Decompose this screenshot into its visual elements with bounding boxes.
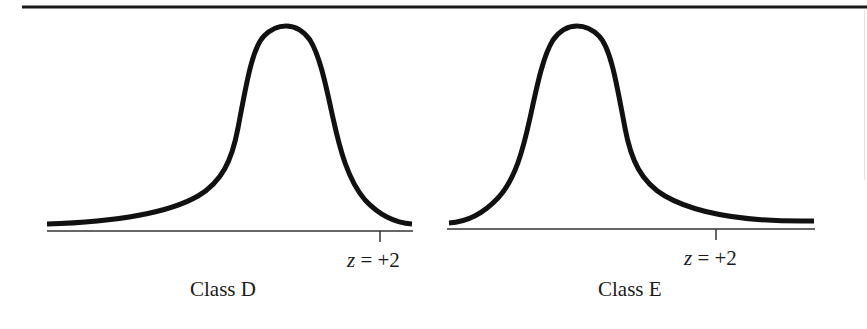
z-label-class-d: z = +2 [347, 250, 400, 271]
z-variable: z [684, 246, 692, 270]
z-variable: z [347, 248, 355, 272]
panel-class-d [47, 26, 413, 242]
panel-title-class-e: Class E [598, 279, 662, 300]
distribution-curve-class-e [449, 26, 814, 223]
figure: z = +2 Class D z = +2 Class E [0, 0, 867, 329]
z-value: = +2 [355, 248, 400, 272]
z-value: = +2 [692, 246, 737, 270]
panel-title-class-d: Class D [190, 279, 256, 300]
panel-class-e [447, 26, 815, 240]
distribution-curve-class-d [47, 26, 412, 224]
z-label-class-e: z = +2 [684, 248, 737, 269]
figure-canvas [0, 0, 867, 329]
